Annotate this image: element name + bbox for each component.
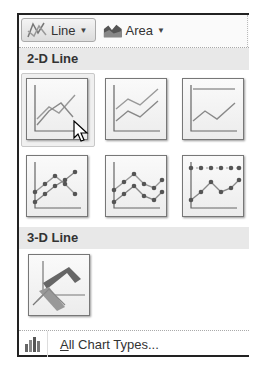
chart-type-dropdown: Line ▼ Area ▼ 2-D Line [17, 13, 249, 357]
chart-option-3d-line[interactable] [28, 254, 90, 316]
section-header-2d-line: 2-D Line [19, 48, 249, 70]
chart-option-100-stacked-line-markers[interactable] [182, 155, 244, 217]
100-stacked-line-markers-icon [183, 156, 243, 216]
all-chart-types-menu-item[interactable]: All Chart Types... [19, 331, 249, 357]
chart-toolbar: Line ▼ Area ▼ [19, 15, 249, 48]
chart-option-line-markers[interactable] [26, 155, 88, 217]
area-chart-icon [103, 21, 123, 39]
mouse-cursor-icon [73, 120, 89, 144]
3d-line-icon [29, 255, 89, 315]
line-chart-button[interactable]: Line ▼ [21, 18, 96, 42]
line-markers-icon [27, 156, 87, 216]
chevron-down-icon: ▼ [80, 26, 88, 35]
chart-option-stacked-line-markers[interactable] [105, 155, 167, 217]
area-chart-button[interactable]: Area ▼ [99, 18, 169, 42]
chart-option-stacked-line[interactable] [105, 78, 167, 140]
line-chart-label: Line [51, 23, 76, 38]
all-chart-types-label: All Chart Types... [48, 337, 159, 352]
area-chart-label: Area [126, 23, 153, 38]
100-stacked-line-icon [183, 79, 243, 139]
section-header-3d-line: 3-D Line [19, 227, 249, 249]
line-chart-icon [26, 21, 48, 39]
toolbar-separator [247, 15, 248, 47]
chart-option-100-stacked-line[interactable] [182, 78, 244, 140]
stacked-line-markers-icon [106, 156, 166, 216]
chart-types-icon [19, 331, 48, 357]
chevron-down-icon: ▼ [157, 26, 165, 35]
stacked-line-icon [106, 79, 166, 139]
